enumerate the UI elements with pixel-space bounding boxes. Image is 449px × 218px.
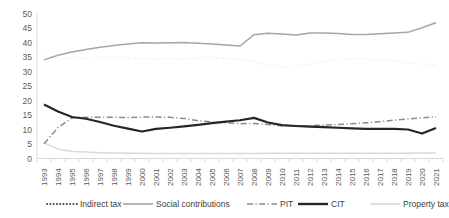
y-tick-25: 25 [23, 81, 33, 91]
x-tick-2013: 2013 [320, 168, 329, 186]
y-tick-45: 45 [23, 23, 33, 33]
line-chart: 05101520253035404550 1993199419951996199… [0, 0, 449, 218]
y-tick-10: 10 [23, 125, 33, 135]
x-tick-2015: 2015 [348, 168, 357, 186]
x-tick-1997: 1997 [96, 168, 105, 186]
x-tick-2000: 2000 [138, 168, 147, 186]
data-series-group [44, 23, 436, 154]
x-tick-2001: 2001 [152, 168, 161, 186]
series-line-property-tax [44, 143, 436, 154]
y-tick-15: 15 [23, 110, 33, 120]
x-tick-1995: 1995 [68, 168, 77, 186]
series-line-cit [44, 105, 436, 134]
x-tick-1996: 1996 [82, 168, 91, 186]
y-tick-35: 35 [23, 52, 33, 62]
x-tick-1993: 1993 [40, 168, 49, 186]
x-tick-2005: 2005 [208, 168, 217, 186]
x-tick-2007: 2007 [236, 168, 245, 186]
x-tick-2014: 2014 [334, 168, 343, 186]
legend-label-indirect-tax: Indirect tax [80, 199, 122, 209]
chart-legend: Indirect taxSocial contributionsPITCITPr… [47, 199, 449, 209]
y-axis-tick-labels: 05101520253035404550 [23, 9, 33, 164]
series-line-social-contributions [44, 23, 436, 60]
x-tick-2021: 2021 [432, 168, 441, 186]
x-tick-1994: 1994 [54, 168, 63, 186]
y-tick-40: 40 [23, 38, 33, 48]
x-tick-2009: 2009 [264, 168, 273, 186]
x-tick-1998: 1998 [110, 168, 119, 186]
series-line-indirect-tax [44, 56, 436, 67]
legend-label-pit: PIT [280, 199, 293, 209]
x-tick-2010: 2010 [278, 168, 287, 186]
y-tick-50: 50 [23, 9, 33, 19]
x-tick-2016: 2016 [362, 168, 371, 186]
y-tick-5: 5 [27, 139, 32, 149]
legend-label-social-contributions: Social contributions [156, 199, 230, 209]
x-tick-2006: 2006 [222, 168, 231, 186]
x-tick-2019: 2019 [404, 168, 413, 186]
legend-label-cit: CIT [331, 199, 345, 209]
x-tick-2008: 2008 [250, 168, 259, 186]
axis-lines [37, 13, 443, 159]
y-tick-20: 20 [23, 96, 33, 106]
x-tick-2012: 2012 [306, 168, 315, 186]
x-tick-2002: 2002 [166, 168, 175, 186]
legend-label-property-tax: Property tax [403, 199, 449, 209]
x-tick-2017: 2017 [376, 168, 385, 186]
chart-plot-area: 05101520253035404550 1993199419951996199… [0, 0, 449, 218]
x-tick-2011: 2011 [292, 168, 301, 186]
x-tick-2003: 2003 [180, 168, 189, 186]
x-tick-2004: 2004 [194, 168, 203, 186]
x-axis-tick-marks [37, 159, 443, 163]
y-tick-30: 30 [23, 67, 33, 77]
x-tick-1999: 1999 [124, 168, 133, 186]
y-tick-0: 0 [27, 154, 32, 164]
x-tick-2018: 2018 [390, 168, 399, 186]
x-axis-tick-labels: 1993199419951996199719981999200020012002… [40, 168, 441, 186]
x-tick-2020: 2020 [418, 168, 427, 186]
